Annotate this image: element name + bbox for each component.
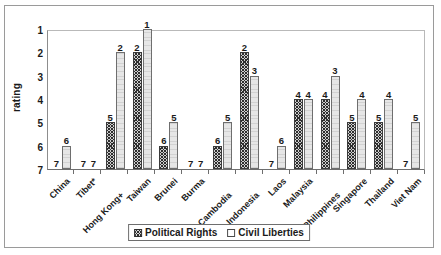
bar-value-label: 3 [332,66,337,76]
bar-group: 75 [397,31,424,169]
bar-civil-liberties[interactable]: 6 [62,146,71,169]
bar-value-label: 5 [349,113,354,123]
legend-item-label: Political Rights [145,227,217,238]
bar-value-label: 5 [376,113,381,123]
bar-pair: 77 [75,31,102,169]
chart-legend: Political RightsCivil Liberties [128,224,310,241]
y-tick-label: 1 [25,25,43,36]
bar-group: 54 [370,31,397,169]
bar-value-label: 5 [413,113,418,123]
bar-value-label: 6 [215,136,220,146]
y-tick-label: 7 [25,165,43,176]
bar-pair: 77 [182,31,209,169]
y-tick-label: 6 [25,141,43,152]
y-axis-tick-labels: 1234567 [25,30,45,170]
bar-value-label: 4 [306,90,311,100]
bar-value-label: 4 [296,90,301,100]
bar-civil-liberties[interactable]: 3 [250,76,259,169]
bar-group: 76 [263,31,290,169]
bar-group: 77 [75,31,102,169]
y-tick-label: 3 [25,71,43,82]
x-tick-label: Brunei [155,172,182,220]
bar-political-rights[interactable]: 6 [213,146,222,169]
bar-pair: 65 [209,31,236,169]
bar-pair: 76 [263,31,290,169]
bar-value-label: 7 [91,159,96,169]
bar-group: 77 [182,31,209,169]
bar-value-label: 5 [107,113,112,123]
legend-item[interactable]: Political Rights [134,227,217,238]
bar-civil-liberties[interactable]: 4 [357,99,366,169]
bar-group: 21 [129,31,156,169]
bar-political-rights[interactable]: 5 [106,122,115,169]
x-tick-label: Singapore [344,172,371,220]
bar-value-label: 7 [198,159,203,169]
bar-political-rights[interactable]: 4 [321,99,330,169]
bar-political-rights[interactable]: 5 [374,122,383,169]
y-axis-title-text: rating [11,83,22,112]
bar-group: 54 [343,31,370,169]
x-tick-label-text: Brunei [153,176,180,203]
bar-value-label: 2 [117,43,122,53]
x-tick-label-text: China [47,176,72,201]
bar-groups: 7677522165776523764443545475 [48,31,424,169]
bar-civil-liberties[interactable]: 4 [304,99,313,169]
bar-value-label: 4 [322,90,327,100]
x-axis-tick-labels: ChinaTibet*Hong Kong+TaiwanBruneiBurmaCa… [47,172,425,220]
bar-value-label: 2 [242,43,247,53]
bar-value-label: 1 [144,20,149,30]
bar-civil-liberties[interactable]: 5 [169,122,178,169]
bar-value-label: 7 [188,159,193,169]
bar-value-label: 7 [54,159,59,169]
bar-political-rights[interactable]: 2 [133,52,142,169]
bar-group: 52 [102,31,129,169]
bar-political-rights[interactable]: 4 [294,99,303,169]
bar-pair: 76 [48,31,75,169]
bar-civil-liberties[interactable]: 3 [331,76,340,169]
bar-civil-liberties[interactable]: 6 [277,146,286,169]
bar-value-label: 7 [81,159,86,169]
plot-area: 7677522165776523764443545475 [47,30,425,170]
bar-value-label: 6 [279,136,284,146]
y-tick-label: 2 [25,48,43,59]
bar-group: 65 [155,31,182,169]
bar-political-rights[interactable]: 5 [347,122,356,169]
bar-political-rights[interactable]: 2 [240,52,249,169]
y-tick-label: 5 [25,118,43,129]
x-tick-label: Thailand [371,172,398,220]
legend-item-label: Civil Liberties [238,227,304,238]
bar-group: 23 [236,31,263,169]
chart-figure: rating 1234567 7677522165776523764443545… [4,5,434,248]
x-tick-label: Viet Nam [398,172,425,220]
bar-civil-liberties[interactable]: 5 [223,122,232,169]
bar-value-label: 6 [64,136,69,146]
bar-value-label: 7 [269,159,274,169]
legend-item[interactable]: Civil Liberties [227,227,304,238]
bar-pair: 43 [317,31,344,169]
bar-group: 43 [317,31,344,169]
x-tick-label: Taiwan [128,172,155,220]
bar-pair: 54 [370,31,397,169]
bar-group: 65 [209,31,236,169]
bar-civil-liberties[interactable]: 2 [116,52,125,169]
x-tick-label-text: Burma [180,176,207,203]
open-swatch [227,229,235,237]
bar-group: 76 [48,31,75,169]
bar-political-rights[interactable]: 6 [159,146,168,169]
bar-value-label: 4 [386,90,391,100]
bar-pair: 75 [397,31,424,169]
bar-value-label: 4 [359,90,364,100]
x-tick-label-text: Tibet* [74,176,99,201]
bar-civil-liberties[interactable]: 5 [411,122,420,169]
x-tick-label: Indonesia [236,172,263,220]
y-axis-title: rating [7,62,25,132]
bar-value-label: 6 [161,136,166,146]
bar-civil-liberties[interactable]: 4 [384,99,393,169]
y-tick-label: 4 [25,95,43,106]
bar-civil-liberties[interactable]: 1 [143,29,152,169]
x-tick-label-text: Taiwan [125,176,153,204]
bar-value-label: 3 [252,66,257,76]
hatched-swatch [134,229,142,237]
bar-pair: 44 [290,31,317,169]
bar-value-label: 5 [171,113,176,123]
